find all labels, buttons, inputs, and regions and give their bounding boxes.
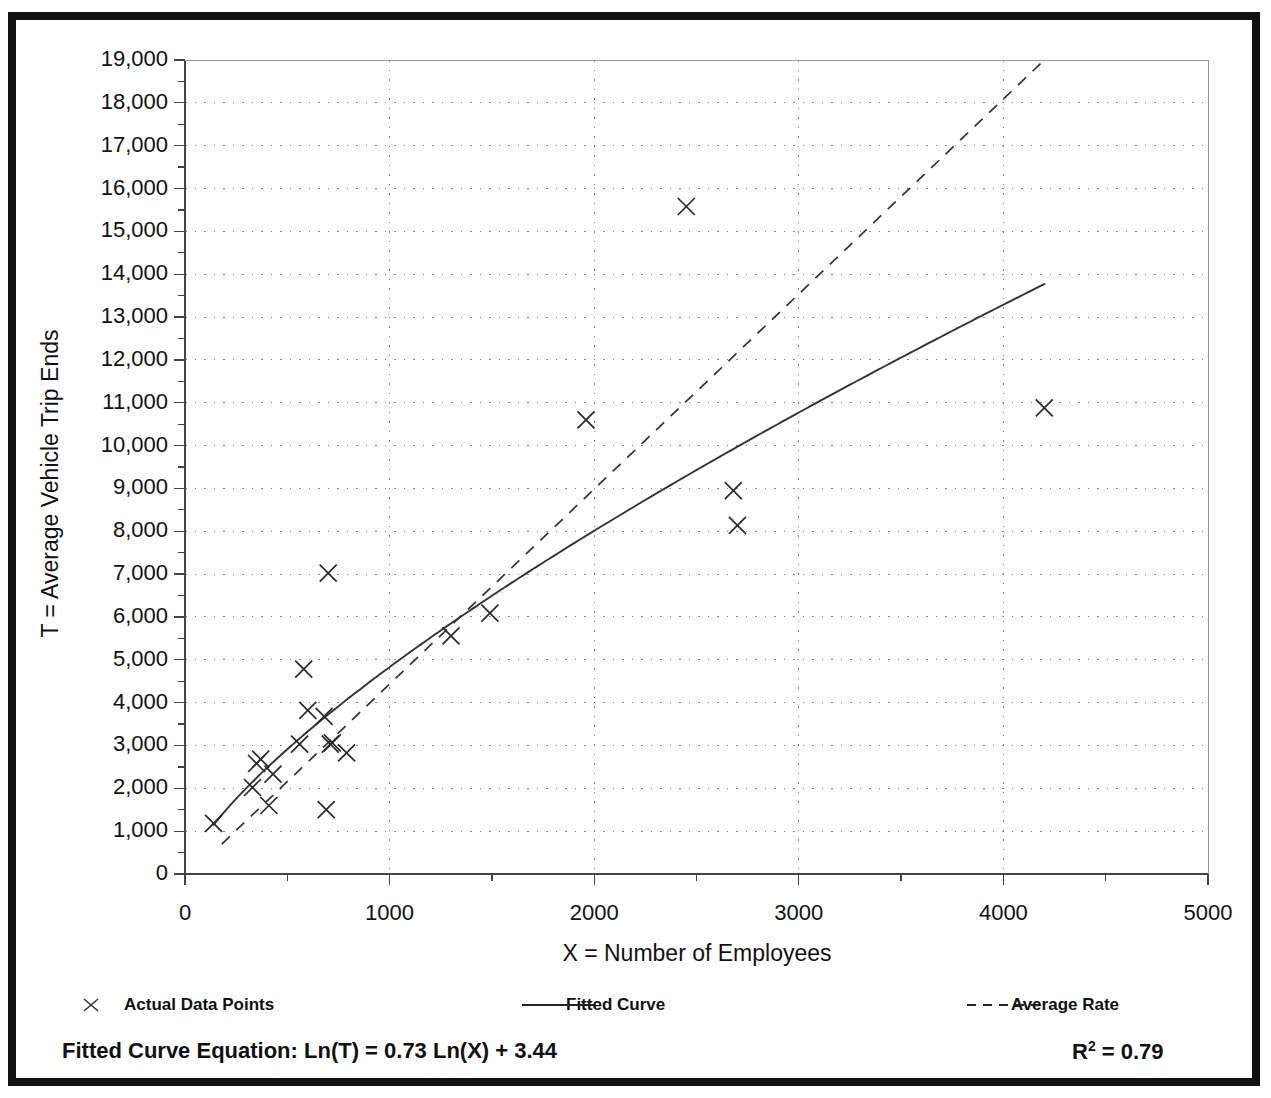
r-squared-value: = 0.79 (1096, 1039, 1164, 1064)
y-tick-label: 18,000 (58, 89, 168, 115)
annotation-row: Fitted Curve Equation: Ln(T) = 0.73 Ln(X… (62, 1038, 1222, 1072)
solid-line-icon (520, 995, 554, 1015)
y-tick-label: 14,000 (58, 260, 168, 286)
x-tick-label: 3000 (739, 900, 859, 926)
y-tick-label: 9,000 (58, 474, 168, 500)
y-tick-label: 3,000 (58, 731, 168, 757)
y-tick-label: 2,000 (58, 774, 168, 800)
dashed-line-icon (965, 995, 999, 1015)
y-tick-label: 5,000 (58, 646, 168, 672)
y-tick-label: 1,000 (58, 817, 168, 843)
y-tick-label: 0 (58, 860, 168, 886)
y-tick-label: 4,000 (58, 689, 168, 715)
cross-marker-icon (78, 995, 112, 1015)
r-squared-exponent: 2 (1088, 1038, 1096, 1054)
y-tick-label: 7,000 (58, 560, 168, 586)
r-squared-label: R (1072, 1039, 1088, 1064)
y-tick-label: 13,000 (58, 303, 168, 329)
x-tick-label: 1000 (330, 900, 450, 926)
y-tick-label: 15,000 (58, 217, 168, 243)
x-axis-label: X = Number of Employees (185, 940, 1209, 967)
y-tick-label: 16,000 (58, 175, 168, 201)
legend-item-fitted-curve[interactable]: Fitted Curve (520, 990, 665, 1020)
y-tick-label: 12,000 (58, 346, 168, 372)
legend-item-actual-data-points[interactable]: Actual Data Points (78, 990, 274, 1020)
x-tick-label: 4000 (943, 900, 1063, 926)
y-tick-label: 17,000 (58, 132, 168, 158)
x-tick-label: 5000 (1148, 900, 1268, 926)
x-tick-label: 2000 (534, 900, 654, 926)
legend-item-average-rate[interactable]: Average Rate (965, 990, 1119, 1020)
y-tick-label: 6,000 (58, 603, 168, 629)
y-tick-label: 10,000 (58, 432, 168, 458)
fitted-curve-equation: Fitted Curve Equation: Ln(T) = 0.73 Ln(X… (62, 1038, 557, 1064)
figure-root: T = Average Vehicle Trip Ends X = Number… (0, 0, 1271, 1098)
y-tick-label: 11,000 (58, 389, 168, 415)
r-squared-annotation: R2 = 0.79 (1072, 1038, 1164, 1065)
y-tick-label: 19,000 (58, 46, 168, 72)
x-tick-label: 0 (125, 900, 245, 926)
legend-label: Actual Data Points (124, 995, 274, 1015)
legend: Actual Data Points Fitted Curve Average … (60, 990, 1210, 1024)
y-tick-label: 8,000 (58, 517, 168, 543)
